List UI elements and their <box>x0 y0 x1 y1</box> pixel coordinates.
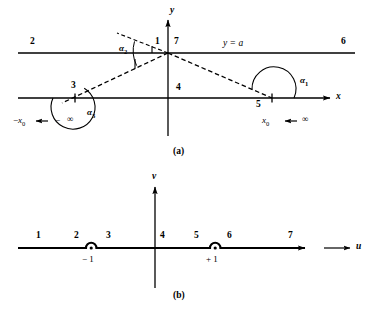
limit-label-left-infinity: ∞ <box>67 115 73 124</box>
angle-label-alpha1: α1 <box>300 76 308 87</box>
branch-point-minus-one <box>90 246 93 249</box>
angle-label-alpha1-sub: 1 <box>305 80 308 87</box>
angle-label-alpha2-sub: 2 <box>124 48 127 55</box>
dashed-ray-to-minus-x0 <box>62 53 168 103</box>
v-axis-label: v <box>152 172 156 182</box>
caption-panel-b: (b) <box>173 291 185 301</box>
segment-label-a-6: 6 <box>341 37 346 47</box>
y-axis-label: y <box>170 6 174 16</box>
segment-label-a-4: 4 <box>176 83 181 93</box>
point-label-minus-one: − 1 <box>82 255 94 264</box>
branch-point-plus-one <box>214 246 217 249</box>
x-axis-label: x <box>336 92 341 102</box>
angle-label-alpha3: α3 <box>87 108 95 119</box>
segment-label-a-1: 1 <box>155 37 160 47</box>
segment-label-b-6: 6 <box>227 231 232 241</box>
segment-label-b-4: 4 <box>160 231 165 241</box>
angle-label-alpha2: α2 <box>119 44 127 55</box>
segment-label-b-5: 5 <box>194 231 199 241</box>
segment-label-a-3: 3 <box>71 81 76 91</box>
angle-label-alpha3-sub: 3 <box>92 112 95 119</box>
segment-label-b-1: 1 <box>36 231 41 241</box>
segment-label-b-2: 2 <box>74 231 79 241</box>
figure-container: y x y = a 2 1 7 6 3 4 5 α1 α2 α3 −x0 − ∞… <box>0 0 373 309</box>
caption-panel-a: (a) <box>173 147 184 157</box>
line-equation-label: y = a <box>223 39 243 49</box>
limit-right-sub: 0 <box>266 120 269 127</box>
limit-label-right-var: x0 <box>262 116 269 127</box>
segment-label-a-2: 2 <box>30 37 35 47</box>
limit-label-left-minus2: − <box>55 116 60 125</box>
u-axis-label: u <box>356 242 361 252</box>
panel-b-group <box>18 187 350 288</box>
limit-left-sub: 0 <box>22 120 25 127</box>
segment-label-a-7: 7 <box>174 37 179 47</box>
segment-label-b-7: 7 <box>288 231 293 241</box>
angle-arc-alpha1 <box>252 67 296 98</box>
u-axis-contour <box>18 243 305 248</box>
segment-label-a-5: 5 <box>256 100 261 110</box>
limit-label-right-infinity: ∞ <box>302 115 308 124</box>
limit-label-left-prefix: −x0 <box>13 116 25 127</box>
figure-drawing <box>0 0 373 309</box>
segment-label-b-3: 3 <box>106 231 111 241</box>
point-label-plus-one: + 1 <box>206 255 218 264</box>
